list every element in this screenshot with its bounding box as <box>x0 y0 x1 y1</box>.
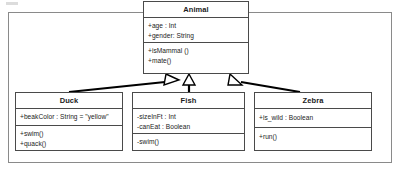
method-item: -swim() <box>137 137 240 147</box>
method-item: +mate() <box>148 56 244 66</box>
attribute-item: +age : Int <box>148 21 244 31</box>
attribute-item: +beakColor : String = "yellow" <box>20 112 118 122</box>
class-box-animal[interactable]: Animal +age : Int +gender: String +isMam… <box>143 1 249 74</box>
method-item: +quack() <box>20 139 118 149</box>
class-name-fish: Fish <box>133 93 244 108</box>
method-item: +isMammal () <box>148 46 244 56</box>
scan-artifact <box>6 2 18 5</box>
class-attributes-duck: +beakColor : String = "yellow" <box>16 108 122 125</box>
class-methods-fish: -swim() <box>133 133 244 150</box>
class-methods-duck: +swim() +quack() <box>16 125 122 150</box>
class-attributes-zebra: +is_wild : Boolean <box>255 108 371 127</box>
class-attributes-animal: +age : Int +gender: String <box>144 17 248 42</box>
class-name-animal: Animal <box>144 2 248 17</box>
class-box-fish[interactable]: Fish -sizeInFt : Int -canEat : Boolean -… <box>132 92 245 151</box>
attribute-item: -canEat : Boolean <box>137 122 240 132</box>
class-name-duck: Duck <box>16 93 122 108</box>
attribute-item: +gender: String <box>148 31 244 41</box>
attribute-item: +is_wild : Boolean <box>259 113 367 123</box>
method-item: +swim() <box>20 129 118 139</box>
class-box-duck[interactable]: Duck +beakColor : String = "yellow" +swi… <box>15 92 123 151</box>
class-box-zebra[interactable]: Zebra +is_wild : Boolean +run() <box>254 92 372 151</box>
class-methods-zebra: +run() <box>255 127 371 150</box>
diagram-canvas: Animal +age : Int +gender: String +isMam… <box>0 0 402 175</box>
class-name-zebra: Zebra <box>255 93 371 108</box>
attribute-item: -sizeInFt : Int <box>137 112 240 122</box>
class-methods-animal: +isMammal () +mate() <box>144 42 248 67</box>
method-item: +run() <box>259 132 367 142</box>
class-attributes-fish: -sizeInFt : Int -canEat : Boolean <box>133 108 244 133</box>
